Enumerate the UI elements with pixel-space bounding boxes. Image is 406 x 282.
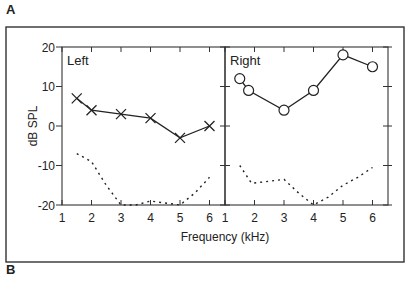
x-tick-label: 6 — [206, 211, 213, 225]
panel-title: Left — [67, 53, 89, 68]
x-tick-label: 2 — [251, 211, 258, 225]
y-tick-label: -10 — [38, 159, 56, 173]
circle-marker — [244, 85, 254, 95]
y-tick-label: 0 — [48, 120, 55, 134]
circle-marker — [368, 62, 378, 72]
x-tick-label: 5 — [340, 211, 347, 225]
y-tick-label: 20 — [42, 41, 56, 55]
circle-marker — [338, 50, 348, 60]
y-axis-label: dB SPL — [26, 105, 40, 146]
x-marker — [72, 93, 82, 103]
x-tick-label: 4 — [147, 211, 154, 225]
x-tick-label: 3 — [281, 211, 288, 225]
panel-title: Right — [230, 53, 261, 68]
x-marker — [175, 133, 185, 143]
figure-frame — [6, 27, 404, 262]
circle-marker — [309, 85, 319, 95]
x-tick-label: 5 — [177, 211, 184, 225]
plot-right: 123456Right — [220, 47, 392, 225]
series-noise-floor — [77, 154, 210, 205]
x-axis-label: Frequency (kHz) — [181, 230, 270, 244]
x-marker — [205, 121, 215, 131]
audiogram-chart: 123456-20-1001020Left123456Right dB SPL … — [0, 0, 406, 282]
x-tick-label: 6 — [369, 211, 376, 225]
circle-marker — [235, 74, 245, 84]
plot-left: 123456-20-1001020Left — [38, 41, 225, 226]
y-tick-label: -20 — [38, 199, 56, 213]
series-noise-floor — [240, 166, 373, 206]
y-tick-label: 10 — [42, 80, 56, 94]
x-tick-label: 1 — [222, 211, 229, 225]
circle-marker — [279, 105, 289, 115]
x-tick-label: 3 — [118, 211, 125, 225]
series-thresholds — [77, 98, 210, 138]
x-tick-label: 1 — [59, 211, 66, 225]
x-tick-label: 4 — [310, 211, 317, 225]
x-tick-label: 2 — [88, 211, 95, 225]
